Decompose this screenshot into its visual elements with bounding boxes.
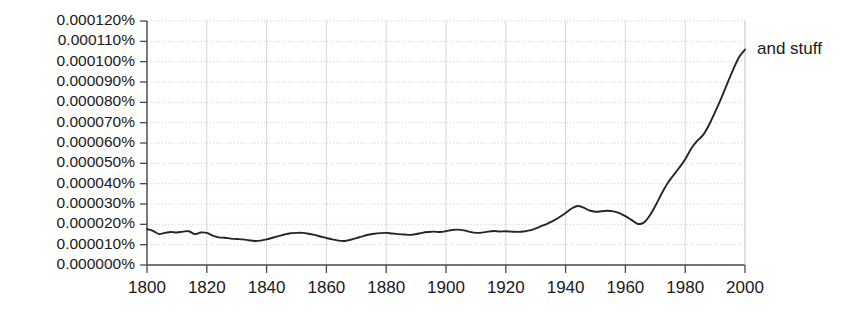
y-axis-tick-label: 0.000060% — [57, 133, 136, 150]
x-axis-tick-label: 2000 — [726, 278, 764, 297]
x-axis-tick-label: 1920 — [487, 278, 525, 297]
y-axis-tick-labels: 0.000120%0.000110%0.000100%0.000090%0.00… — [57, 11, 136, 272]
y-axis-tick-label: 0.000080% — [57, 92, 136, 109]
x-axis-tick-label: 1960 — [606, 278, 644, 297]
x-axis-tick-labels: 1800182018401860188019001920194019601980… — [128, 278, 764, 297]
x-axis-tick-label: 1860 — [307, 278, 345, 297]
y-axis-tick-label: 0.000090% — [57, 72, 136, 89]
x-axis-tick-label: 1880 — [367, 278, 405, 297]
gridlines-vertical — [147, 21, 745, 265]
y-axis-tick-label: 0.000100% — [57, 52, 136, 69]
x-axis-tick-label: 1940 — [547, 278, 585, 297]
y-axis-tick-label: 0.000110% — [58, 31, 135, 48]
y-axis-tick-label: 0.000000% — [57, 255, 136, 272]
y-axis-tick-label: 0.000050% — [57, 153, 136, 170]
x-axis-tick-label: 1980 — [666, 278, 704, 297]
y-axis-tick-label: 0.000070% — [57, 113, 136, 130]
x-axis-tick-label: 1900 — [427, 278, 465, 297]
y-axis-tick-label: 0.000030% — [57, 194, 136, 211]
y-axis-tick-label: 0.000120% — [57, 11, 136, 28]
x-axis-tick-label: 1800 — [128, 278, 166, 297]
ngram-line-chart: 0.000120%0.000110%0.000100%0.000090%0.00… — [0, 0, 857, 316]
y-axis-tick-label: 0.000040% — [57, 174, 136, 191]
y-axis-tick-label: 0.000010% — [57, 235, 136, 252]
series-annotation-group: and stuff — [757, 39, 822, 58]
x-axis-tick-label: 1820 — [188, 278, 226, 297]
series-annotation-label: and stuff — [757, 39, 822, 58]
y-axis-tick-label: 0.000020% — [57, 214, 136, 231]
ngram-chart-page: 0.000120%0.000110%0.000100%0.000090%0.00… — [0, 0, 857, 316]
y-axis — [140, 21, 147, 265]
x-axis-tick-label: 1840 — [248, 278, 286, 297]
